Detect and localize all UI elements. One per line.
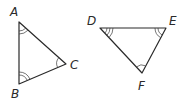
angle-d-marks xyxy=(105,28,113,37)
vertex-label-f: F xyxy=(138,79,146,93)
triangle-abc: A B C xyxy=(9,5,79,101)
angle-c-marks xyxy=(57,58,59,68)
vertex-label-e: E xyxy=(169,14,177,28)
triangles-diagram: A B C D E F xyxy=(0,0,184,101)
triangle-def-outline xyxy=(100,28,166,73)
triangle-abc-outline xyxy=(19,22,66,84)
vertex-label-d: D xyxy=(87,14,96,28)
angle-b-marks xyxy=(19,72,30,81)
vertex-label-b: B xyxy=(11,87,19,101)
vertex-label-a: A xyxy=(9,5,18,19)
vertex-label-c: C xyxy=(70,58,79,72)
triangle-def: D E F xyxy=(87,14,177,93)
angle-f-marks xyxy=(137,65,146,67)
